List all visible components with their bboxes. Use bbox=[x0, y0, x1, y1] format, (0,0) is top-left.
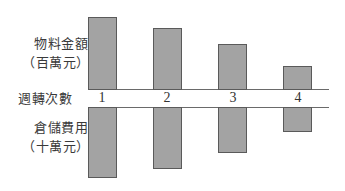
material-amount-bar-2 bbox=[153, 28, 182, 90]
storage-cost-bar-2 bbox=[153, 107, 182, 169]
axis-label: 週轉次數 bbox=[18, 91, 72, 107]
storage-cost-bar-3 bbox=[218, 107, 247, 153]
storage-cost-bar-4 bbox=[283, 107, 312, 132]
bottom-series-label: 倉儲費用 bbox=[34, 120, 88, 136]
material-amount-bar-3 bbox=[218, 44, 247, 90]
top-series-unit: （百萬元） bbox=[22, 55, 90, 71]
tick-3: 3 bbox=[230, 91, 237, 105]
tick-2: 2 bbox=[164, 91, 171, 105]
storage-cost-bar-1 bbox=[88, 107, 117, 178]
material-amount-bar-1 bbox=[88, 17, 117, 90]
material-amount-bar-4 bbox=[283, 66, 312, 90]
tick-1: 1 bbox=[99, 91, 106, 105]
top-series-label: 物料金額 bbox=[34, 36, 88, 52]
tick-4: 4 bbox=[295, 91, 302, 105]
bottom-series-unit: （十萬元） bbox=[22, 139, 90, 155]
